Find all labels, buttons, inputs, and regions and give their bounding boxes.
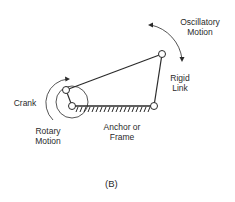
rigid-line2: Link [164, 83, 196, 93]
rigid-line1: Rigid [164, 73, 196, 83]
anchor-line1: Anchor or [96, 122, 148, 132]
rotary-line1: Rotary [28, 126, 68, 136]
crank-end-joint [63, 87, 70, 94]
oscillatory-arrowhead-left-icon [148, 23, 153, 28]
rotary-line2: Motion [28, 136, 68, 146]
oscillatory-motion-label: Oscillatory Motion [172, 17, 228, 37]
crank-pivot-joint [69, 103, 76, 110]
rotary-arrowhead-icon [65, 77, 70, 82]
anchor-line2: Frame [96, 132, 148, 142]
frame-right-joint [151, 103, 158, 110]
coupler-link [66, 54, 162, 90]
oscillatory-line1: Oscillatory [172, 17, 228, 27]
figure-caption: (B) [105, 178, 118, 189]
crank-label: Crank [8, 98, 42, 108]
anchor-frame-label: Anchor or Frame [96, 122, 148, 142]
rigid-rocker-link [154, 54, 162, 106]
rotary-motion-arrow [46, 79, 68, 120]
rotary-motion-label: Rotary Motion [28, 126, 68, 146]
rigid-link-label: Rigid Link [164, 73, 196, 93]
top-right-joint [159, 51, 166, 58]
oscillatory-line2: Motion [172, 27, 228, 37]
oscillatory-arrowhead-down-icon [180, 57, 185, 62]
